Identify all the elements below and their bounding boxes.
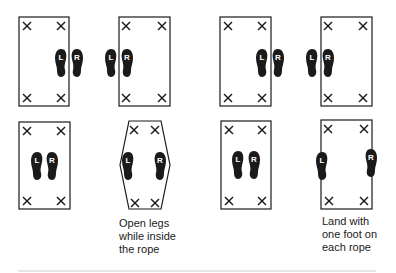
right-foot-icon: R: [122, 49, 133, 77]
caption-line: one foot on: [322, 228, 377, 241]
left-foot-icon: L: [122, 152, 133, 180]
panel-6: L R: [120, 121, 170, 209]
x-marker-icon: [23, 22, 31, 30]
caption-line: the rope: [119, 243, 176, 256]
caption-line: each rope: [322, 241, 377, 254]
x-marker-icon: [122, 94, 130, 102]
svg-text:R: R: [275, 53, 281, 62]
svg-text:L: L: [126, 156, 131, 165]
left-foot-icon: L: [232, 151, 243, 179]
x-marker-icon: [57, 22, 65, 30]
left-foot-icon: L: [105, 49, 116, 77]
right-foot-icon: R: [155, 152, 166, 180]
svg-text:R: R: [124, 53, 130, 62]
x-marker-icon: [57, 94, 65, 102]
right-foot-icon: R: [323, 49, 334, 77]
x-marker-icon: [258, 126, 266, 134]
bottom-divider: [18, 270, 376, 272]
x-marker-icon: [360, 125, 368, 133]
svg-text:R: R: [325, 53, 331, 62]
left-foot-icon: L: [55, 49, 66, 77]
svg-text:L: L: [35, 156, 40, 165]
svg-text:R: R: [74, 53, 80, 62]
svg-text:R: R: [368, 153, 374, 162]
x-marker-icon: [359, 94, 367, 102]
rope-rectangle: [221, 121, 271, 209]
rope-rectangle: [19, 122, 70, 209]
panel-4: L R: [306, 17, 372, 106]
x-marker-icon: [324, 22, 332, 30]
x-marker-icon: [225, 197, 233, 205]
x-marker-icon: [23, 197, 31, 205]
svg-text:R: R: [49, 156, 55, 165]
panel-5: L R: [19, 122, 70, 209]
x-marker-icon: [131, 199, 139, 207]
left-foot-icon: L: [31, 152, 42, 180]
caption-line: Land with: [322, 215, 377, 228]
x-marker-icon: [57, 197, 65, 205]
right-foot-icon: R: [249, 151, 260, 179]
x-marker-icon: [158, 22, 166, 30]
caption-land-on-rope: Land with one foot on each rope: [322, 215, 377, 254]
svg-text:L: L: [109, 53, 114, 62]
svg-text:R: R: [251, 155, 257, 164]
svg-text:L: L: [236, 155, 241, 164]
x-marker-icon: [130, 126, 138, 134]
x-marker-icon: [151, 126, 159, 134]
rope-rectangle: [321, 120, 372, 209]
x-marker-icon: [158, 94, 166, 102]
right-foot-icon: R: [366, 149, 377, 177]
left-foot-icon: L: [256, 49, 267, 77]
caption-line: while inside: [119, 230, 176, 243]
x-marker-icon: [225, 126, 233, 134]
x-marker-icon: [324, 125, 332, 133]
x-marker-icon: [151, 199, 159, 207]
panel-3: L R: [220, 17, 284, 106]
x-marker-icon: [324, 94, 332, 102]
right-foot-icon: R: [72, 49, 83, 77]
x-marker-icon: [359, 22, 367, 30]
caption-open-legs: Open legs while inside the rope: [119, 217, 176, 256]
x-marker-icon: [23, 127, 31, 135]
svg-text:R: R: [157, 156, 163, 165]
svg-text:L: L: [310, 53, 315, 62]
panel-1: L R: [19, 17, 83, 106]
x-marker-icon: [122, 22, 130, 30]
right-foot-icon: R: [273, 49, 284, 77]
svg-text:L: L: [320, 156, 325, 165]
panel-8: L R: [316, 120, 377, 209]
x-marker-icon: [325, 197, 333, 205]
svg-text:L: L: [260, 53, 265, 62]
right-foot-icon: R: [47, 152, 58, 180]
x-marker-icon: [57, 127, 65, 135]
panel-2: L R: [105, 17, 170, 106]
x-marker-icon: [224, 94, 232, 102]
x-marker-icon: [258, 197, 266, 205]
x-marker-icon: [360, 197, 368, 205]
left-foot-icon: L: [306, 49, 317, 77]
caption-line: Open legs: [119, 217, 176, 230]
panel-7: L R: [221, 121, 271, 209]
left-foot-icon: L: [316, 152, 327, 180]
x-marker-icon: [23, 94, 31, 102]
x-marker-icon: [258, 94, 266, 102]
x-marker-icon: [258, 22, 266, 30]
svg-text:L: L: [59, 53, 64, 62]
x-marker-icon: [224, 22, 232, 30]
